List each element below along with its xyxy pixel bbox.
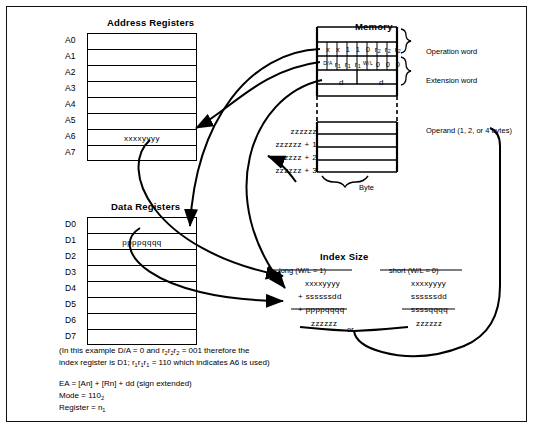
diagram-frame: Address Registers xxxxyyyy Data Register… <box>6 6 527 422</box>
operand-label: Operand (1, 2, or 4 bytes) <box>426 126 512 135</box>
memory-bit-cell: r2 <box>383 45 393 54</box>
address-register-row[interactable] <box>88 50 196 66</box>
data-register-label: D0 <box>65 219 76 229</box>
long-term-1: + ssssssdd <box>298 292 342 301</box>
address-register-label: A4 <box>65 99 75 109</box>
data-register-value: ppppqqqq <box>88 237 196 246</box>
memory-address-label: zzzzzz + 3 <box>7 166 317 175</box>
long-term-2: + ppppqqqq <box>298 305 345 314</box>
short-term-0: xxxxyyyy <box>411 279 446 288</box>
memory-title: Memory <box>355 21 393 32</box>
memory-bit-cell: W/L <box>363 60 373 66</box>
memory-bit-cell: 0 <box>373 60 383 69</box>
data-register-label: D4 <box>65 283 76 293</box>
data-register-row[interactable] <box>88 330 196 346</box>
address-register-label: A5 <box>65 115 75 125</box>
address-register-row[interactable] <box>88 82 196 98</box>
memory-bit-cell: 0 <box>363 45 373 54</box>
memory-bit-cell: r2 <box>373 45 383 54</box>
address-register-label: A3 <box>65 83 75 93</box>
memory-bit-cell: r1 <box>353 60 363 69</box>
index-long-header: long (W/L = 1) <box>279 266 326 275</box>
memory-displacement-cell: d <box>379 78 384 87</box>
index-short-header: short (W/L = 0) <box>389 266 439 275</box>
data-register-label: D5 <box>65 299 76 309</box>
data-register-label: D2 <box>65 251 76 261</box>
address-register-label: A1 <box>65 51 75 61</box>
long-result: zzzzzz <box>311 319 337 328</box>
memory-address-label: zzzzzz <box>7 127 317 136</box>
address-register-row[interactable] <box>88 34 196 50</box>
short-result: zzzzzz <box>416 319 442 328</box>
index-size-title: Index Size <box>320 251 368 262</box>
byte-label: Byte <box>359 183 374 192</box>
short-term-1: ssssssdd <box>411 292 447 301</box>
data-register-row[interactable] <box>88 282 196 298</box>
address-register-row[interactable] <box>88 98 196 114</box>
data-register-label: D7 <box>65 331 76 341</box>
memory-bit-cell: D/A <box>323 60 333 66</box>
note-ea: EA = [An] + [Rn] + dd (sign extended) <box>59 378 192 391</box>
data-register-label: D3 <box>65 267 76 277</box>
memory-bit-cell: 1 <box>343 45 353 54</box>
memory-displacement-cell: d <box>339 78 344 87</box>
memory-bit-cell: r1 <box>343 60 353 69</box>
data-register-row[interactable] <box>88 266 196 282</box>
data-register-row[interactable] <box>88 298 196 314</box>
memory-bit-cell: r2 <box>393 45 403 54</box>
data-register-row[interactable] <box>88 218 196 234</box>
index-or-label: or <box>347 325 354 334</box>
extension-word-label: Extension word <box>426 76 477 85</box>
memory-bit-cell: 1 <box>353 45 363 54</box>
data-register-label: D6 <box>65 315 76 325</box>
memory-bit-cell: 0 <box>393 60 403 69</box>
memory-bit-cell: r1 <box>333 60 343 69</box>
memory-bit-cell: 0 <box>383 60 393 69</box>
long-term-0: xxxxyyyy <box>305 279 340 288</box>
data-register-label: D1 <box>65 235 76 245</box>
memory-address-label: zzzzzz + 2 <box>7 153 317 162</box>
data-registers-box: ppppqqqq <box>87 217 197 345</box>
address-registers-title: Address Registers <box>107 17 194 28</box>
address-register-row[interactable] <box>88 66 196 82</box>
data-register-row[interactable] <box>88 250 196 266</box>
data-register-row[interactable]: ppppqqqq <box>88 234 196 250</box>
address-register-label: A2 <box>65 67 75 77</box>
operation-word-label: Operation word <box>426 47 477 56</box>
memory-address-label: zzzzzz + 1 <box>7 140 317 149</box>
memory-bit-cell: x <box>333 45 343 54</box>
note-line-2: index register is D1; r1r1r1 = 110 which… <box>59 357 270 371</box>
memory-bit-cell: x <box>323 45 333 54</box>
data-registers-title: Data Registers <box>111 201 180 212</box>
data-register-row[interactable] <box>88 314 196 330</box>
short-term-2: ssssqqqq <box>411 305 448 314</box>
address-register-label: A0 <box>65 35 75 45</box>
note-register: Register = n1 <box>59 402 106 416</box>
